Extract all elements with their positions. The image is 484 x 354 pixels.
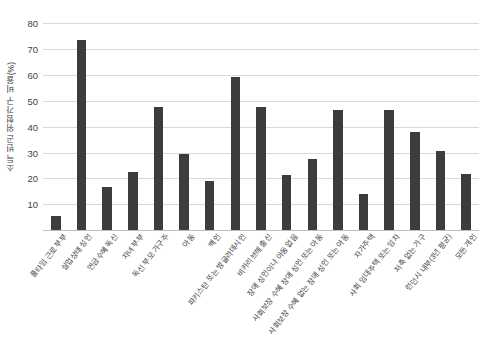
bar — [128, 172, 138, 231]
bar — [282, 175, 292, 231]
bar — [102, 187, 112, 231]
y-axis-title: 소득 빈곤 위험가구 비율(%) — [0, 0, 22, 235]
x-axis-tick-label-text: 아동 — [179, 231, 196, 249]
x-axis-tick-label-text: 모든 개인 — [452, 231, 479, 262]
x-axis-tick-label: 모든 개인 — [452, 231, 479, 262]
bar — [308, 159, 318, 231]
y-axis-title-text: 소득 빈곤 위험가구 비율(%) — [5, 62, 17, 172]
bar — [461, 174, 471, 231]
y-axis-tick-label: 70 — [27, 44, 38, 55]
y-axis-tick-label: 10 — [27, 199, 38, 210]
bar — [51, 216, 61, 232]
y-axis-tick-label: 60 — [27, 70, 38, 81]
bar — [179, 154, 189, 232]
bar — [359, 194, 369, 231]
x-axis-tick-label-text: 백인 — [205, 231, 222, 249]
bar-chart: 소득 빈곤 위험가구 비율(%) 1020304050607080 풀타임 근로… — [0, 0, 484, 354]
y-axis-tick-label: 30 — [27, 147, 38, 158]
bar — [410, 132, 420, 231]
x-axis-tick-label: 풀타임 근로 부부 — [27, 231, 68, 280]
y-axis-tick-label: 50 — [27, 95, 38, 106]
y-axis-tick-label: 80 — [27, 18, 38, 29]
y-axis-tick-label: 20 — [27, 173, 38, 184]
bar — [384, 110, 394, 231]
bar — [436, 151, 446, 231]
x-axis-labels: 풀타임 근로 부부실업상태 성인연금수혜 독신자녀 부부독신 부모 가구주아동백… — [43, 231, 479, 354]
y-axis-tick-label: 40 — [27, 121, 38, 132]
bar — [205, 181, 215, 231]
bar — [333, 110, 343, 231]
bar — [77, 40, 87, 231]
x-axis-tick-label: 백인 — [205, 231, 222, 249]
x-axis-tick-label: 런던시 내부(3년 평균) — [402, 231, 453, 293]
x-axis-tick-label: 아동 — [179, 231, 196, 249]
bar — [154, 107, 164, 231]
bars-layer — [43, 14, 479, 231]
plot-area: 1020304050607080 — [43, 14, 479, 231]
bar — [231, 77, 241, 231]
x-axis-tick-label-text: 풀타임 근로 부부 — [27, 231, 68, 280]
x-axis-tick-label-text: 런던시 내부(3년 평균) — [402, 231, 453, 293]
bar — [256, 107, 266, 231]
